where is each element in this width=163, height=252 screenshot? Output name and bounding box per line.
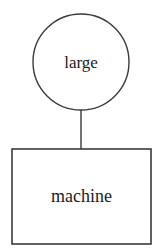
diagram-svg: large machine: [0, 0, 163, 252]
node-large-label: large: [64, 53, 98, 72]
diagram-canvas: large machine: [0, 0, 163, 252]
node-machine-label: machine: [51, 186, 112, 206]
